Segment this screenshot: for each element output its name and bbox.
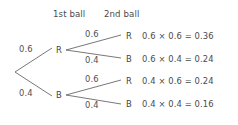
equation-outcome-bb: 0.4 × 0.4 = 0.16 [142,99,214,109]
leaf-outcome-rb: B [126,54,132,64]
header-second-ball: 2nd ball [104,9,139,19]
equation-outcome-rr: 0.6 × 0.6 = 0.36 [142,31,214,41]
leaf-outcome-bb: B [126,99,132,109]
probability-level2-rb: 0.4 [85,55,99,65]
probability-level1-blue: 0.4 [19,88,33,98]
header-first-ball: 1st ball [53,9,85,19]
equation-outcome-rb: 0.6 × 0.4 = 0.24 [142,54,214,64]
probability-level1-red: 0.6 [19,44,33,54]
probability-level2-rr: 0.6 [85,29,99,39]
node-level1-red: R [56,45,62,55]
probability-level2-br: 0.6 [85,74,99,84]
leaf-outcome-rr: R [126,31,132,41]
leaf-outcome-br: R [126,76,132,86]
probability-tree-diagram: 1st ball 2nd ball 0.6 0.4 R B 0.6 0.4 0.… [0,0,238,125]
equation-outcome-br: 0.4 × 0.6 = 0.24 [142,76,214,86]
node-level1-blue: B [56,90,62,100]
probability-level2-bb: 0.4 [85,100,99,110]
